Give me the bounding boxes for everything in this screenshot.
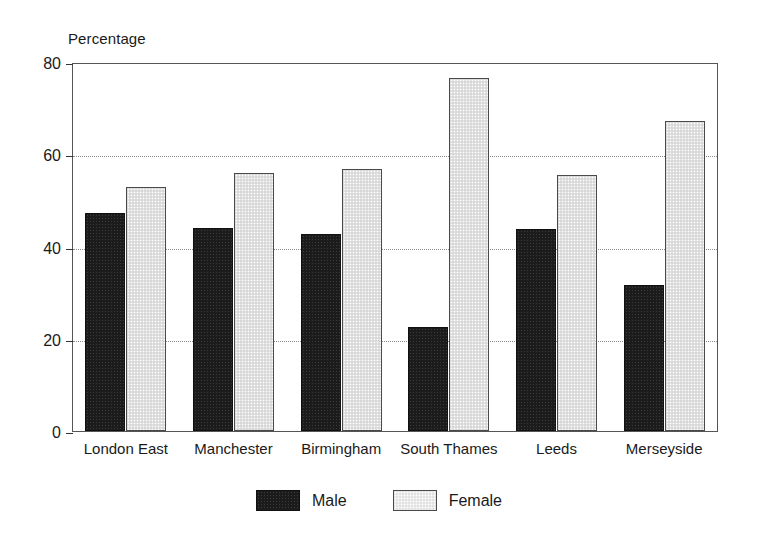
legend-swatch-male-icon: [256, 490, 300, 511]
bar-female: [665, 121, 705, 431]
y-axis-tick-label: 40: [43, 240, 61, 258]
y-axis-tick-mark: [66, 433, 73, 434]
y-axis-tick-mark: [66, 341, 73, 342]
bar-female: [342, 169, 382, 431]
y-axis-tick-mark: [66, 249, 73, 250]
bar-female: [557, 175, 597, 431]
plot-area: 020406080: [72, 63, 718, 432]
bar-chart: Percentage 020406080 London EastManchest…: [0, 0, 758, 541]
bar-male: [301, 234, 341, 431]
legend-swatch-female-icon: [393, 490, 437, 511]
legend-item-male: Male: [256, 490, 347, 511]
y-axis-tick-mark: [66, 156, 73, 157]
x-axis-category-label: London East: [84, 440, 168, 457]
y-axis-title: Percentage: [68, 30, 146, 47]
x-axis-category-label: Merseyside: [626, 440, 703, 457]
bar-male: [516, 229, 556, 431]
y-axis-tick-label: 60: [43, 147, 61, 165]
bar-male: [193, 228, 233, 431]
legend-label-male: Male: [312, 492, 347, 510]
x-axis-category-label: Manchester: [194, 440, 272, 457]
y-axis-tick-label: 0: [52, 424, 61, 442]
bar-female: [449, 78, 489, 431]
gridline: [73, 156, 717, 157]
gridline: [73, 249, 717, 250]
bar-male: [408, 327, 448, 431]
bar-female: [126, 187, 166, 431]
x-axis-category-label: Leeds: [536, 440, 577, 457]
gridline: [73, 341, 717, 342]
bar-female: [234, 173, 274, 431]
y-axis-tick-mark: [66, 64, 73, 65]
x-axis-category-label: South Thames: [400, 440, 497, 457]
y-axis-tick-label: 20: [43, 332, 61, 350]
chart-legend: Male Female: [0, 490, 758, 511]
bar-male: [85, 213, 125, 431]
legend-item-female: Female: [393, 490, 502, 511]
bar-male: [624, 285, 664, 431]
legend-label-female: Female: [449, 492, 502, 510]
y-axis-tick-label: 80: [43, 55, 61, 73]
x-axis-category-label: Birmingham: [301, 440, 381, 457]
